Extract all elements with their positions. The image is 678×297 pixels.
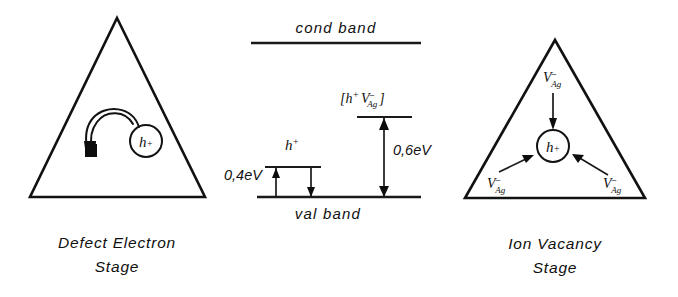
vacancy-br-sup: – <box>611 175 617 185</box>
vacancy-bottom-left-label: V–Ag <box>487 175 506 195</box>
vacancy-bottom-right-label: V–Ag <box>603 175 622 195</box>
vacancy-bottom-left-arrowhead <box>522 155 534 163</box>
left-curved-arrow-path-inner <box>91 113 133 149</box>
vacancy-top-arrowhead <box>549 118 557 130</box>
center-panel-group: cond band [h+V–Ag] 0,6eV h+ 0,4eV val ba… <box>224 19 432 222</box>
left-hole-label: h+ <box>139 134 153 150</box>
complex-level-label: [h+V–Ag] <box>340 90 385 109</box>
complex-bracket-close: ] <box>378 91 384 106</box>
conduction-band-label: cond band <box>296 19 377 36</box>
deep-energy-label: 0,6eV <box>393 142 432 158</box>
left-triangle-outline <box>30 18 205 197</box>
vacancy-bl-sub: Ag <box>494 185 505 195</box>
vacancy-top-label: V–Ag <box>543 69 562 89</box>
figure-container: h+ Defect Electron Stage cond band [h+V–… <box>0 0 678 297</box>
vacancy-bottom-right-arrowhead <box>572 154 584 163</box>
complex-h-sup: + <box>352 90 358 100</box>
right-hole-charge: + <box>554 144 560 154</box>
vacancy-bottom-left-arrow-line <box>499 158 528 172</box>
right-hole-letter: h <box>546 139 554 155</box>
complex-h: h <box>345 91 352 106</box>
vacancy-bottom-right-arrow-line <box>578 157 608 175</box>
deep-transition-arrowhead-down <box>379 186 389 197</box>
shallow-transition-arrowhead-up <box>272 168 280 178</box>
left-panel-group: h+ Defect Electron Stage <box>30 18 205 275</box>
shallow-transition-arrowhead-down <box>307 187 315 197</box>
left-hole-charge: + <box>147 139 153 149</box>
diagram-svg: h+ Defect Electron Stage cond band [h+V–… <box>0 0 678 297</box>
vacancy-top-sup: – <box>551 69 557 79</box>
left-caption-line2: Stage <box>95 258 140 275</box>
vacancy-top-sub: Ag <box>550 79 561 89</box>
complex-v-sub: Ag <box>366 99 377 109</box>
left-hole-letter: h <box>139 134 147 150</box>
vacancy-bl-sup: – <box>495 175 501 185</box>
right-caption-line1: Ion Vacancy <box>508 235 602 252</box>
deep-transition-arrowhead-up <box>379 118 389 130</box>
valence-band-label: val band <box>295 205 361 222</box>
defect-trap-square <box>85 144 97 157</box>
left-caption-line1: Defect Electron <box>58 234 176 251</box>
hole-level-letter: h <box>285 137 293 153</box>
vacancy-br-sub: Ag <box>610 185 621 195</box>
right-hole-label: h+ <box>546 139 560 155</box>
right-panel-group: V–Ag h+ V–Ag V–Ag Ion Vacancy Stage <box>465 40 645 276</box>
hole-level-charge: + <box>293 137 299 147</box>
shallow-energy-label: 0,4eV <box>224 167 263 183</box>
hole-level-label: h+ <box>285 137 299 153</box>
right-caption-line2: Stage <box>533 259 578 276</box>
